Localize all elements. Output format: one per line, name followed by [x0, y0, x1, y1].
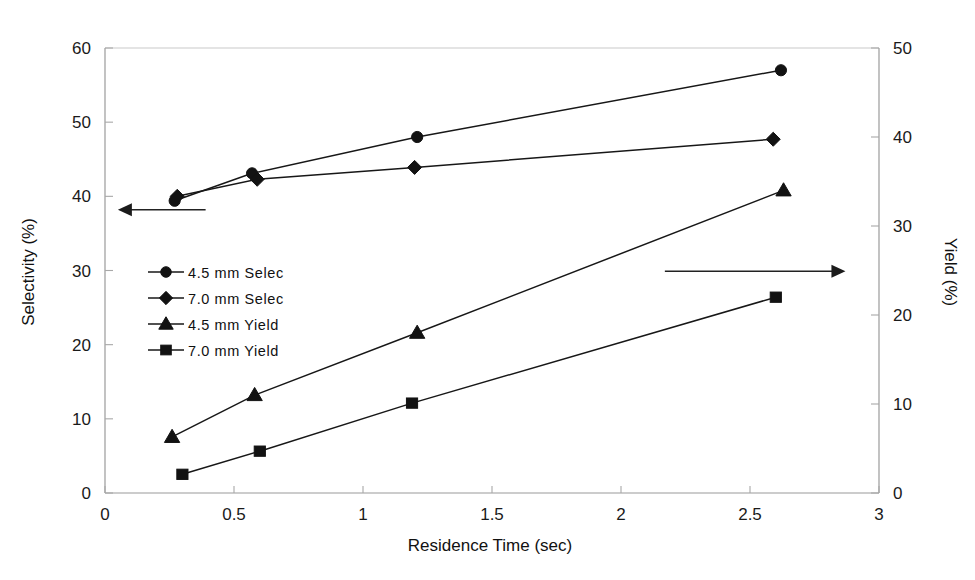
- right-axis-arrow: [665, 265, 846, 278]
- data-point-square: [177, 469, 188, 479]
- y2-tick-label: 30: [893, 217, 912, 236]
- x-tick-label: 0: [100, 505, 109, 524]
- data-point-triangle: [159, 317, 173, 329]
- right-axis-arrow-head: [831, 265, 845, 278]
- legend-item-label: 7.0 mm Yield: [188, 343, 279, 359]
- data-point-diamond: [408, 160, 422, 174]
- y2-tick-label: 20: [893, 306, 912, 325]
- legend-item-label: 4.5 mm Selec: [188, 265, 284, 281]
- data-point-square: [770, 292, 781, 302]
- y-tick-label: 0: [82, 484, 91, 503]
- series-0: [169, 65, 786, 207]
- tick-group: 00.511.522.53010203040506001020304050: [72, 39, 912, 524]
- x-tick-label: 2.5: [738, 505, 762, 524]
- legend-item-label: 4.5 mm Yield: [188, 317, 279, 333]
- data-point-triangle: [247, 387, 262, 400]
- x-tick-label: 1.5: [480, 505, 504, 524]
- y-tick-label: 50: [72, 113, 91, 132]
- x-tick-label: 2: [616, 505, 625, 524]
- data-point-triangle: [164, 429, 179, 442]
- series-line: [177, 139, 773, 196]
- data-point-circle: [412, 131, 423, 142]
- chart-page: 00.511.522.53010203040506001020304050 4.…: [0, 0, 975, 580]
- legend-item-3: 7.0 mm Yield: [148, 343, 279, 359]
- left-axis-arrow: [118, 203, 206, 216]
- y-axis-title: Selectivity (%): [19, 218, 38, 326]
- legend-item-0: 4.5 mm Selec: [148, 265, 284, 281]
- series-line: [172, 190, 783, 437]
- y-tick-label: 30: [72, 262, 91, 281]
- left-axis-arrow-head: [118, 203, 132, 216]
- data-point-triangle: [776, 183, 791, 196]
- y-tick-label: 40: [72, 187, 91, 206]
- y-tick-label: 60: [72, 39, 91, 58]
- series-line: [175, 70, 781, 201]
- series-2: [164, 183, 791, 443]
- data-point-diamond: [159, 291, 172, 304]
- data-point-diamond: [766, 132, 780, 146]
- data-point-circle: [775, 65, 786, 76]
- data-point-square: [161, 345, 172, 355]
- x-tick-label: 0.5: [222, 505, 246, 524]
- y-tick-label: 20: [72, 336, 91, 355]
- data-point-triangle: [410, 325, 425, 338]
- y2-tick-label: 10: [893, 395, 912, 414]
- data-point-circle: [161, 267, 172, 278]
- data-point-square: [406, 398, 417, 408]
- selectivity-yield-line-chart: 00.511.522.53010203040506001020304050 4.…: [0, 0, 975, 580]
- y-tick-label: 10: [72, 410, 91, 429]
- y2-tick-label: 0: [893, 484, 902, 503]
- series-1: [170, 132, 780, 203]
- x-tick-label: 3: [874, 505, 883, 524]
- y2-tick-label: 40: [893, 128, 912, 147]
- x-axis-title: Residence Time (sec): [408, 536, 572, 555]
- legend: 4.5 mm Selec7.0 mm Selec4.5 mm Yield7.0 …: [148, 265, 284, 359]
- y2-axis-title: Yield (%): [941, 238, 960, 306]
- legend-item-label: 7.0 mm Selec: [188, 291, 284, 307]
- x-tick-label: 1: [358, 505, 367, 524]
- data-point-square: [254, 446, 265, 456]
- y2-tick-label: 50: [893, 39, 912, 58]
- legend-item-1: 7.0 mm Selec: [148, 291, 284, 307]
- legend-item-2: 4.5 mm Yield: [148, 317, 279, 333]
